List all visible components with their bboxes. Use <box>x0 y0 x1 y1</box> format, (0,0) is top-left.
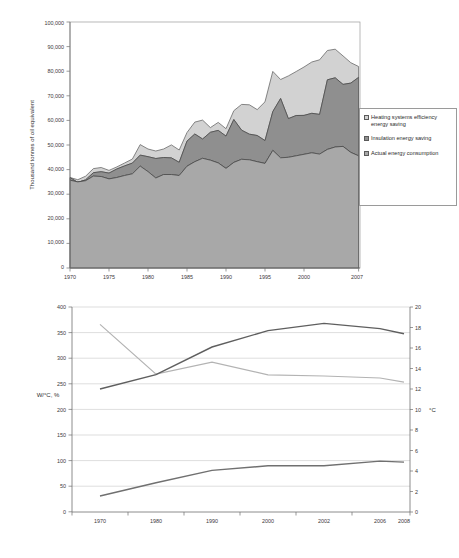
bottom-ytick-right-6: 6 <box>415 448 418 454</box>
bottom-y-ticks-left <box>69 307 73 512</box>
bottom-ytick-300: 300 <box>57 355 66 361</box>
bottom-ytick-right-20: 20 <box>415 304 421 310</box>
legend-item-heating-efficiency[interactable]: Heating systems efficiency energy saving <box>364 114 452 128</box>
bottom-ytick-right-14: 14 <box>415 366 421 372</box>
bottom-xtick-2008: 2008 <box>398 518 410 524</box>
top-ytick-100000: 100,000 <box>45 20 65 26</box>
legend-label-heating-efficiency: Heating systems efficiency energy saving <box>371 114 452 128</box>
bottom-x-ticks <box>72 512 410 516</box>
top-ytick-90000: 90,000 <box>48 44 65 50</box>
bottom-xtick-2000: 2000 <box>262 518 274 524</box>
top-ytick-10000: 10,000 <box>48 239 65 245</box>
figure-page: 100,000 90,000 80,000 70,000 60,000 50,0… <box>0 0 459 558</box>
top-xtick-1985: 1985 <box>181 274 193 280</box>
bottom-ytick-right-2: 2 <box>415 489 418 495</box>
top-ytick-70000: 70,000 <box>48 93 65 99</box>
bottom-chart-panel: 400 350 300 250 200 150 100 50 0 <box>0 292 459 558</box>
line-average-dwelling-heat-loss <box>100 324 404 382</box>
legend-item-actual-consumption[interactable]: Actual energy consumption <box>364 150 452 157</box>
top-ytick-60000: 60,000 <box>48 117 65 123</box>
top-ytick-80000: 80,000 <box>48 68 65 74</box>
bottom-xtick-1980: 1980 <box>150 518 162 524</box>
bottom-ytick-50: 50 <box>60 483 66 489</box>
top-y-axis-title: Thousand tonnes of oil equivalent <box>29 100 35 190</box>
top-xtick-2000: 2000 <box>298 274 310 280</box>
bottom-ytick-400: 400 <box>57 304 66 310</box>
bottom-xtick-2002: 2002 <box>318 518 330 524</box>
bottom-ytick-250: 250 <box>57 381 66 387</box>
bottom-ytick-right-12: 12 <box>415 386 421 392</box>
top-xtick-1970: 1970 <box>64 274 76 280</box>
bottom-ytick-right-8: 8 <box>415 427 418 433</box>
bottom-x-tick-labels: 1970 1980 1990 2000 2002 2006 2008 <box>94 518 410 524</box>
legend-swatch-icon-insulation-saving <box>364 136 369 141</box>
line-central-heating-ownership <box>100 461 404 496</box>
legend-label-insulation-saving: Insulation energy saving <box>371 135 431 142</box>
top-chart-legend: Heating systems efficiency energy saving… <box>359 108 457 206</box>
top-xtick-1995: 1995 <box>259 274 271 280</box>
top-ytick-20000: 20,000 <box>48 215 65 221</box>
bottom-ytick-0: 0 <box>63 509 66 515</box>
bottom-y-ticks-right <box>410 307 413 512</box>
top-x-tick-labels: 1970 1975 1980 1985 1990 1995 2000 2007 <box>64 274 363 280</box>
bottom-grid-lines <box>72 307 410 486</box>
bottom-ytick-200: 200 <box>57 407 66 413</box>
top-xtick-1980: 1980 <box>142 274 154 280</box>
top-xtick-1990: 1990 <box>220 274 232 280</box>
legend-swatch-icon-heating-efficiency <box>364 115 369 120</box>
bottom-ytick-100: 100 <box>57 458 66 464</box>
bottom-ytick-right-16: 16 <box>415 345 421 351</box>
bottom-xtick-1990: 1990 <box>206 518 218 524</box>
bottom-ytick-right-10: 10 <box>415 407 421 413</box>
top-x-ticks <box>70 268 359 272</box>
bottom-xtick-1970: 1970 <box>94 518 106 524</box>
top-chart-panel: 100,000 90,000 80,000 70,000 60,000 50,0… <box>0 0 459 292</box>
top-y-tick-labels: 100,000 90,000 80,000 70,000 60,000 50,0… <box>45 20 65 270</box>
bottom-ytick-right-18: 18 <box>415 325 421 331</box>
top-ytick-50000: 50,000 <box>48 142 65 148</box>
bottom-y-tick-labels-right: 20 18 16 14 12 10 8 6 4 2 0 <box>415 304 421 515</box>
bottom-ytick-right-0: 0 <box>415 509 418 515</box>
bottom-y-tick-labels: 400 350 300 250 200 150 100 50 0 <box>57 304 66 515</box>
top-ytick-0: 0 <box>61 264 64 270</box>
legend-swatch-icon-actual-consumption <box>364 151 369 156</box>
bottom-ytick-right-4: 4 <box>415 468 418 474</box>
legend-label-actual-consumption: Actual energy consumption <box>371 150 438 157</box>
bottom-xtick-2006: 2006 <box>374 518 386 524</box>
line-internal-temperature-actual <box>100 323 404 389</box>
bottom-y-axis-title-right: °C <box>429 407 436 413</box>
top-ytick-30000: 30,000 <box>48 190 65 196</box>
bottom-chart-svg: 400 350 300 250 200 150 100 50 0 <box>0 292 459 558</box>
bottom-ytick-350: 350 <box>57 330 66 336</box>
top-ytick-40000: 40,000 <box>48 166 65 172</box>
legend-item-insulation-saving[interactable]: Insulation energy saving <box>364 135 452 142</box>
top-y-ticks <box>67 22 71 268</box>
bottom-series-lines <box>100 323 404 496</box>
bottom-ytick-150: 150 <box>57 432 66 438</box>
top-xtick-2007: 2007 <box>351 274 363 280</box>
top-xtick-1975: 1975 <box>103 274 115 280</box>
bottom-y-axis-title-left: W/°C, % <box>37 392 60 398</box>
